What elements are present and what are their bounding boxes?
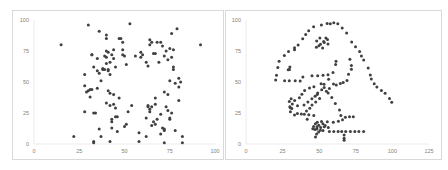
data-point — [339, 114, 342, 117]
data-point — [154, 52, 157, 55]
data-point — [326, 22, 329, 25]
data-point — [138, 140, 141, 143]
data-point — [350, 68, 353, 71]
data-point — [336, 22, 339, 25]
data-point — [83, 84, 86, 87]
data-point — [163, 55, 166, 58]
data-point — [109, 73, 112, 76]
data-point — [323, 83, 326, 86]
data-point — [96, 87, 99, 90]
data-point — [340, 130, 343, 133]
data-point — [300, 93, 303, 96]
data-point — [121, 41, 124, 44]
data-point — [307, 113, 310, 116]
data-point — [152, 120, 155, 123]
data-point — [388, 97, 391, 100]
data-point — [337, 130, 340, 133]
data-point — [287, 50, 290, 53]
left-scatter-chart: 02550751000255075100 — [12, 10, 224, 160]
y-tick-label: 75 — [23, 48, 29, 54]
data-point — [148, 43, 151, 46]
data-point — [168, 79, 171, 82]
data-point — [352, 115, 355, 118]
data-point — [310, 97, 313, 100]
data-point — [150, 105, 153, 108]
data-point — [157, 61, 160, 64]
data-point — [170, 112, 173, 115]
data-point — [110, 126, 113, 129]
data-point — [304, 33, 307, 36]
data-point — [103, 55, 106, 58]
data-point — [163, 141, 166, 144]
data-point — [294, 79, 297, 82]
data-point — [390, 101, 393, 104]
y-tick-label: 100 — [232, 17, 241, 23]
data-point — [166, 58, 169, 61]
data-point — [314, 136, 317, 139]
data-point — [112, 103, 115, 106]
data-point — [347, 73, 350, 76]
data-point — [276, 66, 279, 69]
data-point — [324, 124, 327, 127]
data-point — [139, 56, 142, 59]
data-point — [303, 89, 306, 92]
data-point — [156, 118, 159, 121]
data-point — [168, 47, 171, 50]
data-point — [145, 135, 148, 138]
data-point — [163, 129, 166, 132]
data-point — [125, 123, 128, 126]
data-point — [335, 60, 338, 63]
data-point — [156, 41, 159, 44]
data-point — [303, 113, 306, 116]
data-point — [177, 77, 180, 80]
data-point — [147, 64, 150, 67]
data-point — [107, 68, 110, 71]
data-point — [328, 130, 331, 133]
data-point — [367, 67, 370, 70]
data-point — [100, 135, 103, 138]
data-point — [318, 97, 321, 100]
data-point — [317, 44, 320, 47]
data-point — [362, 59, 365, 62]
data-point — [357, 130, 360, 133]
data-point — [332, 83, 335, 86]
data-point — [315, 40, 318, 43]
data-point — [373, 82, 376, 85]
left-plot-area: 02550751000255075100 — [13, 11, 225, 161]
data-point — [166, 109, 169, 112]
data-point — [337, 120, 340, 123]
data-point — [327, 43, 330, 46]
data-point — [165, 50, 168, 53]
data-point — [370, 78, 373, 81]
data-point — [320, 82, 323, 85]
data-point — [159, 133, 162, 136]
data-point — [83, 73, 86, 76]
data-point — [290, 107, 293, 110]
data-point — [360, 55, 363, 58]
data-point — [327, 78, 330, 81]
data-point — [96, 57, 99, 60]
data-point — [174, 82, 177, 85]
data-point — [150, 41, 153, 44]
x-tick-label: 0 — [244, 148, 247, 154]
y-tick-label: 0 — [238, 141, 241, 147]
data-point — [328, 87, 331, 90]
x-tick-label: 100 — [388, 148, 397, 154]
data-point — [275, 74, 278, 77]
data-point — [322, 129, 325, 132]
data-point — [150, 124, 153, 127]
data-point — [311, 74, 314, 77]
data-point — [344, 116, 347, 119]
data-point — [320, 88, 323, 91]
data-point — [338, 108, 341, 111]
data-point — [168, 118, 171, 121]
data-point — [311, 104, 314, 107]
data-point — [110, 120, 113, 123]
data-point — [123, 55, 126, 58]
data-point — [112, 57, 115, 60]
data-point — [297, 43, 300, 46]
data-point — [375, 86, 378, 89]
data-point — [159, 41, 162, 44]
data-point — [148, 38, 151, 41]
data-point — [172, 66, 175, 69]
